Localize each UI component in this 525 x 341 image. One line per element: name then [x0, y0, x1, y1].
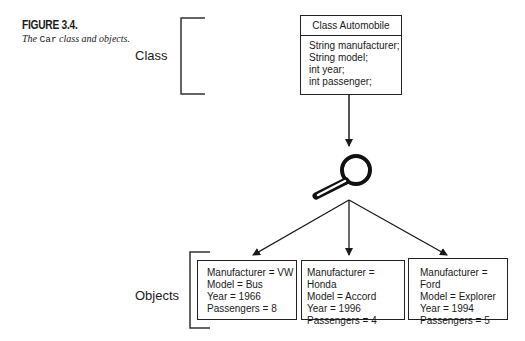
- class-box-title: Class Automobile: [301, 16, 401, 36]
- object-passengers: Passengers = 4: [307, 315, 404, 327]
- objects-label: Objects: [135, 288, 179, 303]
- object-manufacturer: Manufacturer = Ford: [420, 267, 507, 291]
- magnifying-glass-icon: [316, 156, 370, 196]
- object-box-vw: Manufacturer = VW Model = Bus Year = 196…: [197, 260, 297, 320]
- object-manufacturer: Manufacturer = VW: [207, 267, 296, 279]
- class-field: String manufacturer;: [309, 40, 401, 52]
- object-passengers: Passengers = 5: [420, 315, 507, 327]
- object-model: Model = Accord: [307, 291, 404, 303]
- object-manufacturer: Manufacturer = Honda: [307, 267, 404, 291]
- class-bracket: [181, 18, 205, 94]
- class-field: String model;: [309, 52, 401, 64]
- class-box: Class Automobile String manufacturer; St…: [300, 15, 402, 95]
- class-label: Class: [135, 48, 168, 63]
- class-field: int passenger;: [309, 76, 401, 88]
- object-box-honda: Manufacturer = Honda Model = Accord Year…: [301, 260, 405, 320]
- class-field: int year;: [309, 64, 401, 76]
- object-model: Model = Explorer: [420, 291, 507, 303]
- object-passengers: Passengers = 8: [207, 303, 296, 315]
- object-year: Year = 1994: [420, 303, 507, 315]
- object-year: Year = 1966: [207, 291, 296, 303]
- object-box-ford: Manufacturer = Ford Model = Explorer Yea…: [408, 258, 508, 320]
- object-year: Year = 1996: [307, 303, 404, 315]
- object-model: Model = Bus: [207, 279, 296, 291]
